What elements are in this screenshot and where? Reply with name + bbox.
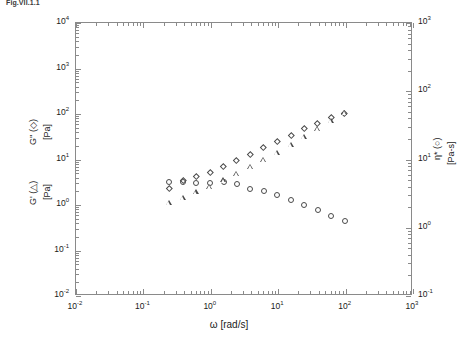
x-axis-minor-tick bbox=[243, 291, 244, 294]
data-point-triangle bbox=[233, 171, 239, 176]
y-axis-left-minor-tick bbox=[76, 100, 79, 101]
x-axis-minor-tick bbox=[258, 291, 259, 294]
x-axis-minor-tick bbox=[398, 23, 399, 26]
x-axis-minor-tick bbox=[243, 23, 244, 26]
y-axis-left-tick-label: 100 bbox=[56, 199, 69, 208]
y-axis-right-tick bbox=[406, 91, 411, 92]
data-point-circle bbox=[342, 218, 348, 224]
data-point-circle bbox=[234, 181, 240, 187]
y-axis-left-minor-tick bbox=[76, 71, 79, 72]
data-point-triangle bbox=[247, 164, 253, 169]
y-axis-right-minor-tick bbox=[408, 118, 411, 119]
data-point-circle bbox=[315, 207, 321, 213]
y-axis-right-minor-tick bbox=[408, 34, 411, 35]
x-axis-tick-label: 101 bbox=[271, 302, 284, 311]
y-axis-left-minor-tick bbox=[76, 55, 79, 56]
x-axis-tick-label: 10-2 bbox=[68, 302, 83, 311]
y-axis-left-tick bbox=[76, 205, 81, 206]
y-axis-right-minor-tick bbox=[408, 243, 411, 244]
y-axis-left-minor-tick bbox=[76, 164, 79, 165]
data-point-triangle bbox=[166, 200, 172, 205]
y-axis-left-minor-tick bbox=[76, 229, 79, 230]
y-axis-right-minor-tick bbox=[408, 170, 411, 171]
x-axis-minor-tick bbox=[231, 23, 232, 26]
y-axis-right-minor-tick bbox=[408, 263, 411, 264]
data-point-triangle bbox=[220, 177, 226, 182]
y-axis-left-tick bbox=[76, 23, 81, 24]
y-axis-left-title-gp: G' (△) bbox=[28, 181, 38, 205]
x-axis-minor-tick bbox=[272, 291, 273, 294]
x-axis-minor-tick bbox=[403, 23, 404, 26]
x-axis-minor-tick bbox=[410, 291, 411, 294]
x-axis-minor-tick bbox=[310, 291, 311, 294]
y-axis-right-minor-tick bbox=[408, 275, 411, 276]
y-axis-right-minor-tick bbox=[408, 98, 411, 99]
y-axis-left-tick bbox=[76, 69, 81, 70]
x-axis-minor-tick bbox=[378, 291, 379, 294]
y-axis-left-minor-tick bbox=[76, 79, 79, 80]
y-axis-right-minor-tick bbox=[408, 238, 411, 239]
x-axis-minor-tick bbox=[184, 23, 185, 26]
data-point-triangle bbox=[260, 157, 266, 162]
x-axis-minor-tick bbox=[386, 23, 387, 26]
data-point-triangle bbox=[328, 118, 334, 123]
x-axis-minor-tick bbox=[398, 291, 399, 294]
y-axis-left-minor-tick bbox=[76, 253, 79, 254]
y-axis-right-minor-tick bbox=[408, 127, 411, 128]
x-axis-minor-tick bbox=[196, 23, 197, 26]
y-axis-left-minor-tick bbox=[76, 258, 79, 259]
y-axis-right-minor-tick bbox=[408, 180, 411, 181]
y-axis-left-tick bbox=[76, 251, 81, 252]
y-axis-right-title: η* (○) bbox=[432, 138, 442, 160]
y-axis-right-minor-tick bbox=[408, 231, 411, 232]
y-axis-left-minor-tick bbox=[76, 33, 79, 34]
y-axis-left-tick bbox=[76, 114, 81, 115]
x-axis-tick bbox=[413, 23, 414, 28]
y-axis-right-minor-tick bbox=[408, 38, 411, 39]
y-axis-left-minor-tick bbox=[76, 124, 79, 125]
x-axis-minor-tick bbox=[196, 291, 197, 294]
x-axis-minor-tick bbox=[231, 291, 232, 294]
data-point-circle bbox=[166, 179, 172, 185]
x-axis-minor-tick bbox=[258, 23, 259, 26]
y-axis-left-minor-tick bbox=[76, 41, 79, 42]
x-axis-minor-tick bbox=[176, 23, 177, 26]
x-axis-minor-tick bbox=[96, 291, 97, 294]
y-axis-right-tick bbox=[406, 228, 411, 229]
y-axis-right-tick-label: 100 bbox=[418, 222, 431, 231]
y-axis-left-minor-tick bbox=[76, 82, 79, 83]
x-axis-minor-tick bbox=[343, 291, 344, 294]
y-axis-left-minor-tick bbox=[76, 76, 79, 77]
data-point-circle bbox=[301, 202, 307, 208]
y-axis-left-minor-tick bbox=[76, 47, 79, 48]
x-axis-minor-tick bbox=[393, 291, 394, 294]
y-axis-left-unit-gpp: [Pa] bbox=[42, 124, 52, 140]
y-axis-left-minor-tick bbox=[76, 219, 79, 220]
y-axis-right-minor-tick bbox=[408, 255, 411, 256]
x-axis-minor-tick bbox=[140, 23, 141, 26]
y-axis-left-unit-gp: [Pa] bbox=[42, 184, 52, 200]
y-axis-right-minor-tick bbox=[408, 106, 411, 107]
y-axis-left-minor-tick bbox=[76, 282, 79, 283]
y-axis-right-minor-tick bbox=[408, 187, 411, 188]
x-axis-minor-tick bbox=[117, 291, 118, 294]
x-axis-minor-tick bbox=[117, 23, 118, 26]
y-axis-right-minor-tick bbox=[408, 102, 411, 103]
x-axis-minor-tick bbox=[123, 23, 124, 26]
y-axis-left-minor-tick bbox=[76, 173, 79, 174]
data-point-triangle bbox=[288, 142, 294, 147]
x-axis-minor-tick bbox=[176, 291, 177, 294]
y-axis-right-tick bbox=[406, 160, 411, 161]
y-axis-left-minor-tick bbox=[76, 207, 79, 208]
y-axis-left-minor-tick bbox=[76, 223, 79, 224]
y-axis-left-minor-tick bbox=[76, 37, 79, 38]
data-point-triangle bbox=[301, 134, 307, 139]
y-axis-left-minor-tick bbox=[76, 92, 79, 93]
x-axis-minor-tick bbox=[184, 291, 185, 294]
x-axis-tick-label: 102 bbox=[338, 302, 351, 311]
x-axis-minor-tick bbox=[164, 291, 165, 294]
x-axis-minor-tick bbox=[335, 23, 336, 26]
x-axis-minor-tick bbox=[200, 291, 201, 294]
data-point-triangle bbox=[314, 126, 320, 131]
x-axis-tick bbox=[211, 23, 212, 28]
